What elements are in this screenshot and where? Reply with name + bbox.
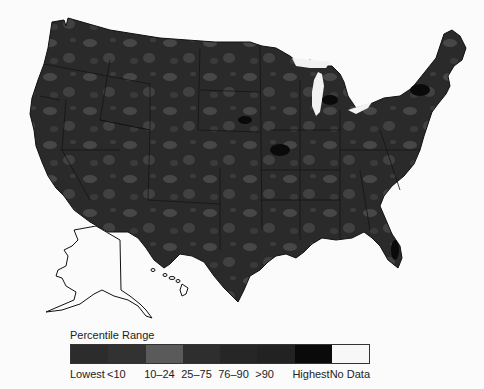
legend-bar	[70, 344, 370, 364]
legend-swatch-76-90	[220, 345, 257, 363]
hawaii-outline	[151, 269, 188, 297]
legend-label: 76–90	[218, 368, 255, 380]
legend-label: 25–75	[181, 368, 218, 380]
legend-swatch-lowest	[71, 345, 108, 363]
legend-label: Lowest	[70, 368, 107, 380]
legend-swatch-highest	[295, 345, 332, 363]
legend-label: >90	[255, 368, 292, 380]
legend-label: 10–24	[144, 368, 181, 380]
legend-swatch-gt90	[257, 345, 294, 363]
legend-swatch-25-75	[183, 345, 220, 363]
legend-label: Highest	[292, 368, 329, 380]
alaska-outline	[46, 226, 152, 318]
map-svg	[0, 0, 484, 320]
legend-label: No Data	[330, 368, 370, 380]
legend-swatch-lt10	[108, 345, 145, 363]
legend-title: Percentile Range	[70, 328, 370, 342]
legend-swatch-10-24	[146, 345, 183, 363]
legend-label: <10	[107, 368, 144, 380]
legend: Percentile Range Lowest <10 10–24 25–75 …	[70, 328, 370, 380]
legend-swatch-no-data	[332, 345, 369, 363]
legend-labels: Lowest <10 10–24 25–75 76–90 >90 Highest…	[70, 368, 370, 380]
us-percentile-map	[0, 0, 484, 320]
